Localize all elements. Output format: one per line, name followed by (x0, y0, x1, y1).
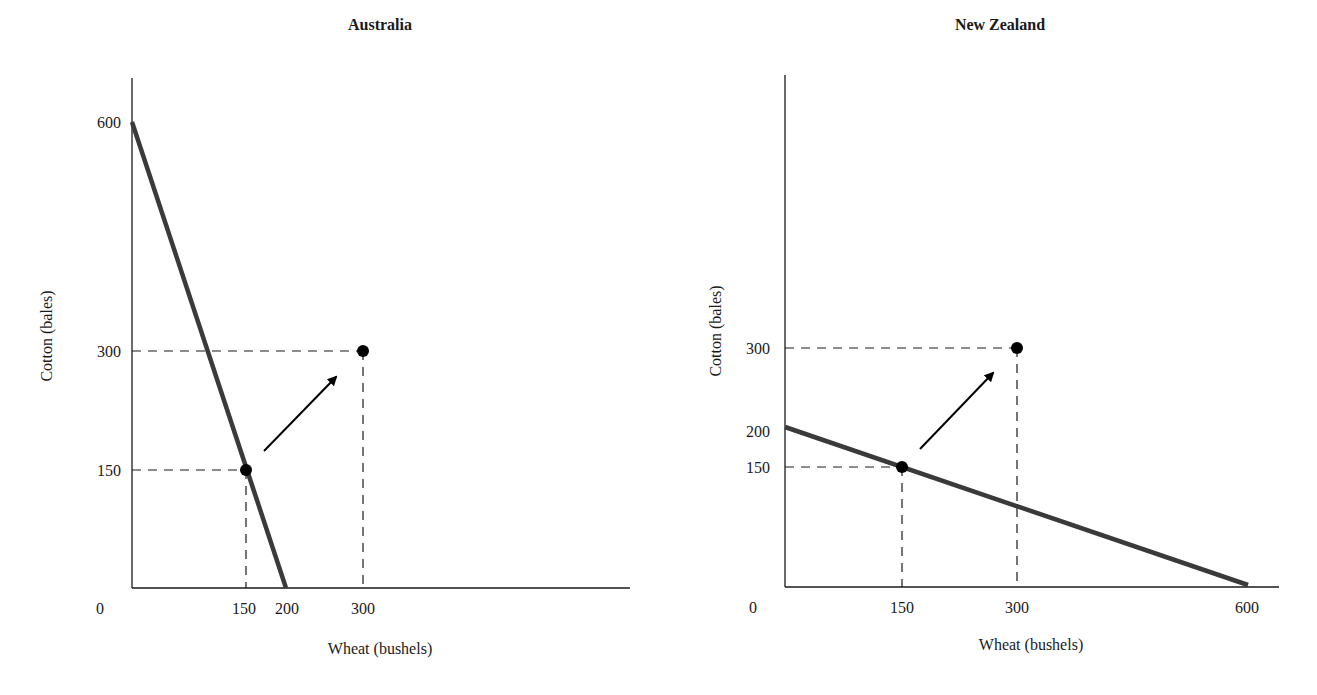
point-trade (357, 345, 369, 357)
origin-label: 0 (749, 599, 757, 616)
y-axis-label: Cotton (bales) (707, 285, 725, 376)
y-tick: 200 (746, 423, 770, 440)
figure: Australia 600 300 150 0 150 200 300 Whea… (0, 0, 1317, 695)
x-tick: 150 (232, 600, 256, 617)
x-tick: 300 (1005, 599, 1029, 616)
point-autarky (240, 464, 252, 476)
x-tick: 150 (890, 599, 914, 616)
y-tick: 300 (97, 343, 121, 360)
y-tick: 600 (97, 114, 121, 131)
point-autarky (896, 461, 908, 473)
chart-new-zealand: New Zealand 300 200 150 0 150 300 600 Wh… (707, 16, 1279, 654)
point-trade (1011, 342, 1023, 354)
y-axis-label: Cotton (bales) (38, 290, 56, 381)
trade-arrow (264, 377, 336, 451)
origin-label: 0 (96, 600, 104, 617)
chart-australia: Australia 600 300 150 0 150 200 300 Whea… (38, 16, 630, 658)
chart-title: New Zealand (955, 16, 1045, 33)
y-tick: 150 (746, 459, 770, 476)
y-tick: 300 (746, 340, 770, 357)
x-tick: 300 (351, 600, 375, 617)
y-tick: 150 (97, 462, 121, 479)
ppf-line (132, 122, 286, 588)
x-axis-label: Wheat (bushels) (328, 640, 432, 658)
x-tick: 200 (275, 600, 299, 617)
trade-arrow (920, 373, 993, 449)
chart-title: Australia (348, 16, 412, 33)
x-tick: 600 (1235, 599, 1259, 616)
x-axis-label: Wheat (bushels) (979, 636, 1083, 654)
